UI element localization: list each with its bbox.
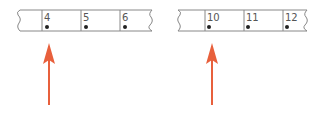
cell-label: 6 [122,12,128,23]
cell-label: 10 [207,12,220,23]
arrow-up-icon [206,43,218,105]
dot-marker [45,25,49,29]
dot-marker [246,25,250,29]
dot-marker [285,25,289,29]
cell-label: 12 [285,12,298,23]
dot-marker [207,25,211,29]
cell-label: 11 [246,12,259,23]
cell-label: 5 [83,12,89,23]
strip-1: 4 5 6 [17,10,152,31]
dot-marker [84,25,88,29]
arrow-up-icon [43,43,55,105]
strip-2: 10 11 12 [178,10,308,31]
dot-marker [123,25,127,29]
cell-label: 4 [44,12,50,23]
number-strip-diagram: 4 5 6 10 11 12 [0,0,323,115]
